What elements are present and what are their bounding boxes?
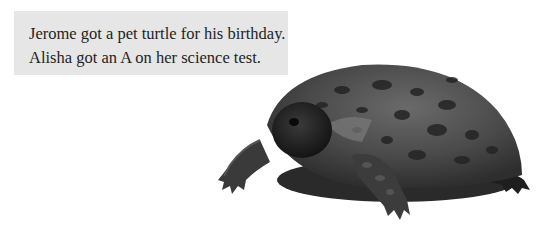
turtle-image <box>212 30 542 225</box>
